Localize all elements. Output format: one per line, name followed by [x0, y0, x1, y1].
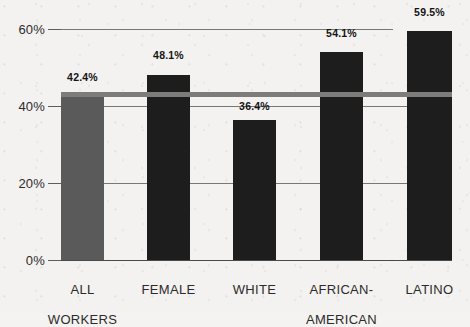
bar-african-american[interactable]: [320, 52, 363, 260]
bar-all-workers[interactable]: [61, 97, 104, 260]
category-label-white-line1: WHITE: [233, 282, 276, 297]
ytick-label-60: 60%: [4, 23, 45, 36]
ytick-mark-40: [48, 106, 61, 107]
bar-latino[interactable]: [407, 31, 452, 260]
bar-white[interactable]: [233, 120, 276, 260]
ytick-label-0: 0%: [4, 254, 45, 267]
category-label-african-american-line2: AMERICAN: [306, 312, 377, 327]
category-label-all-workers-line2: WORKERS: [48, 312, 117, 327]
ytick-label-20: 20%: [4, 177, 45, 190]
category-label-female-line1: FEMALE: [142, 282, 196, 297]
ytick-mark-60: [48, 29, 61, 30]
value-label-white: 36.4%: [227, 101, 282, 112]
value-label-all-workers: 42.4%: [55, 72, 110, 83]
category-label-female: FEMALE: [123, 267, 214, 297]
all-workers-reference-line: [61, 92, 452, 97]
gridline-0-baseline: [61, 260, 452, 261]
category-label-all-workers: ALL WORKERS: [37, 267, 128, 327]
category-label-african-american-line1: AFRICAN-: [310, 282, 374, 297]
ytick-mark-20: [48, 183, 61, 184]
category-label-latino: LATINO: [384, 267, 470, 297]
value-label-african-american: 54.1%: [314, 28, 369, 39]
category-label-all-workers-line1: ALL: [70, 282, 94, 297]
value-label-female: 48.1%: [141, 50, 196, 61]
category-label-latino-line1: LATINO: [406, 282, 454, 297]
value-label-latino: 59.5%: [402, 7, 457, 18]
category-label-african-american: AFRICAN- AMERICAN: [296, 267, 387, 327]
bar-female[interactable]: [147, 75, 190, 260]
ytick-mark-0: [48, 260, 61, 261]
ytick-label-40: 40%: [4, 100, 45, 113]
category-label-white: WHITE: [209, 267, 300, 297]
